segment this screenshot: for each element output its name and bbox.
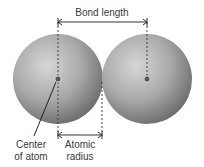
atomic-radius-arrow: [58, 131, 102, 139]
atomic-radius-label-line2: radius: [66, 151, 93, 162]
bond-length-arrow: [58, 18, 147, 26]
bond-length-label: Bond length: [75, 7, 128, 18]
right-nucleus: [144, 76, 150, 82]
atomic-radius-label-line1: Atomic: [65, 139, 96, 150]
left-nucleus: [55, 76, 61, 82]
bond-length-diagram: Bond length Atomic radius Center of atom: [0, 0, 204, 167]
center-of-atom-label-line1: Center: [16, 139, 47, 150]
center-of-atom-label-line2: of atom: [14, 151, 47, 162]
